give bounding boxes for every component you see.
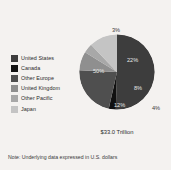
legend-label-united-states: United States — [21, 55, 54, 62]
slice-value-united-kingdom: 8% — [134, 85, 142, 91]
chart-footnote: Note: Underlying data expressed in U.S. … — [8, 154, 117, 160]
legend-swatch-united-kingdom — [11, 85, 18, 92]
slice-value-united-states: 50% — [93, 68, 104, 74]
pie-chart-figure: United States Canada Other Europe United… — [0, 0, 171, 170]
legend-label-japan: Japan — [21, 106, 36, 113]
legend-item-japan[interactable]: Japan — [11, 104, 77, 114]
legend-swatch-united-states — [11, 55, 18, 62]
legend-swatch-japan — [11, 106, 18, 113]
pie-slices — [79, 34, 154, 109]
slice-value-other-europe: 22% — [127, 57, 138, 63]
legend-item-other-europe[interactable]: Other Europe — [11, 73, 77, 83]
legend-swatch-canada — [11, 65, 18, 72]
pie-slice-united-states[interactable] — [116, 34, 155, 109]
legend-item-united-states[interactable]: United States — [11, 53, 77, 63]
slice-value-canada: 3% — [112, 27, 120, 33]
slice-value-japan: 12% — [114, 102, 125, 108]
legend-label-canada: Canada — [21, 65, 40, 72]
pie-total-label: $33.0 Trillion — [80, 129, 154, 135]
legend-swatch-other-pacific — [11, 95, 18, 102]
pie-container — [79, 34, 155, 110]
legend-item-united-kingdom[interactable]: United Kingdom — [11, 84, 77, 94]
pie-svg — [79, 34, 155, 110]
chart-legend: United States Canada Other Europe United… — [11, 53, 77, 114]
legend-item-canada[interactable]: Canada — [11, 63, 77, 73]
legend-label-other-europe: Other Europe — [21, 75, 54, 82]
legend-label-other-pacific: Other Pacific — [21, 95, 53, 102]
legend-item-other-pacific[interactable]: Other Pacific — [11, 94, 77, 104]
slice-value-other-pacific: 4% — [152, 105, 160, 111]
legend-label-united-kingdom: United Kingdom — [21, 85, 60, 92]
legend-swatch-other-europe — [11, 75, 18, 82]
